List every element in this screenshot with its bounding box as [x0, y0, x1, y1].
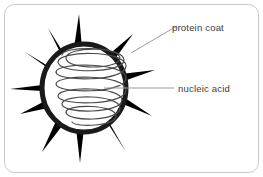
figure-container: protein coat nucleic acid	[0, 0, 263, 177]
label-nucleic-acid: nucleic acid	[178, 83, 230, 94]
label-protein-coat: protein coat	[172, 22, 224, 33]
virus-diagram-svg: protein coat nucleic acid	[0, 0, 263, 177]
